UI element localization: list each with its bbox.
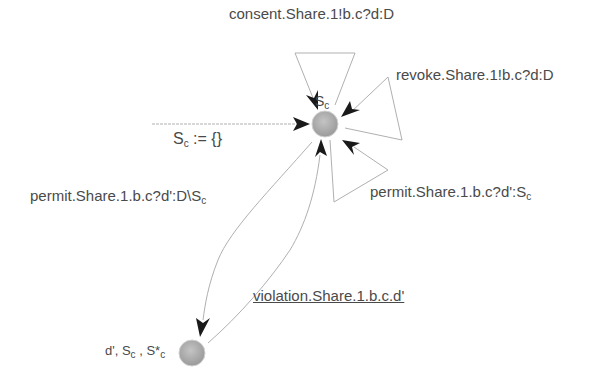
main-node-label: Sc	[315, 93, 329, 111]
violation-node-label-s: S	[122, 343, 131, 358]
violation-node-label-sep: ,	[136, 343, 147, 358]
permit-self-label-main: permit.Share.1.b.c?d':S	[370, 183, 526, 200]
permit-out-label: permit.Share.1.b.c?d':D\Sc	[30, 187, 206, 206]
permit-out-label-sub: c	[201, 195, 206, 206]
arrowhead-icon	[293, 117, 310, 131]
violation-edge	[208, 139, 327, 343]
violation-node-label-d: d',	[105, 343, 122, 358]
permit-out-edge	[196, 142, 312, 337]
arrowhead-icon	[196, 318, 210, 337]
permit-self-label-sub: c	[526, 191, 531, 202]
state-node-main[interactable]	[312, 111, 338, 137]
arrowhead-icon	[341, 101, 360, 117]
consent-label: consent.Share.1!b.c?d:D	[229, 5, 394, 22]
arrowhead-icon	[342, 140, 360, 155]
arrowhead-icon	[315, 139, 327, 157]
init-label: Sc := {}	[173, 130, 222, 149]
init-label-main: S	[173, 130, 184, 147]
permit-out-label-main: permit.Share.1.b.c?d':D\S	[30, 187, 201, 204]
main-node-label-main: S	[315, 93, 324, 109]
revoke-label: revoke.Share.1!b.c?d:D	[396, 66, 554, 83]
permit-self-label: permit.Share.1.b.c?d':Sc	[370, 183, 531, 202]
state-node-violation[interactable]	[179, 340, 205, 366]
main-node-label-sub: c	[324, 100, 329, 111]
initial-transition	[152, 117, 310, 131]
violation-node-label: d', Sc , S*c	[105, 343, 165, 360]
violation-node-label-star-sub: c	[160, 349, 165, 360]
revoke-loop	[341, 77, 402, 140]
violation-node-label-star: S*	[146, 343, 160, 358]
violation-label: violation.Share.1.b.c.d'	[253, 287, 404, 304]
init-label-rest: := {}	[189, 130, 222, 147]
